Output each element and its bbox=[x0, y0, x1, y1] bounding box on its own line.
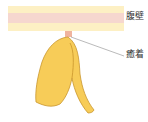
leader-line bbox=[71, 37, 124, 56]
abdominal-wall bbox=[8, 6, 124, 31]
intestine-loop bbox=[36, 37, 94, 113]
adhesion-point bbox=[65, 31, 72, 37]
adhesion-label: 癒着 bbox=[126, 49, 143, 60]
abdominal-wall-label: 腹壁 bbox=[126, 11, 143, 22]
